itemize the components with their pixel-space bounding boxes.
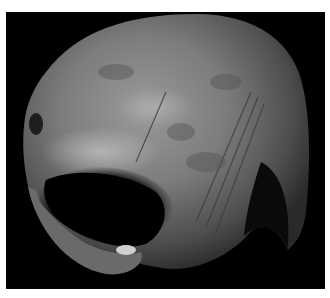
photo-frame <box>6 12 325 289</box>
moon-photo <box>6 12 325 289</box>
bright-spot <box>116 245 136 255</box>
small-crater <box>29 113 43 135</box>
